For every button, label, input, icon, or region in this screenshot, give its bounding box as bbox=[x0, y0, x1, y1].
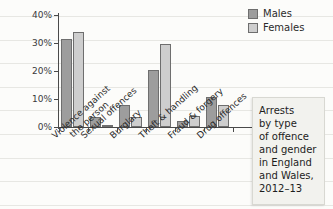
y-axis-tick-label: 20% bbox=[32, 66, 52, 76]
legend-label-males: Males bbox=[263, 8, 292, 19]
legend-item-females[interactable]: Females bbox=[248, 22, 328, 33]
x-axis-tick bbox=[117, 128, 118, 132]
x-axis-tick bbox=[59, 128, 60, 132]
x-axis-tick bbox=[88, 128, 89, 132]
y-axis-tick-label: 10% bbox=[32, 94, 52, 104]
y-axis-tick-label: 30% bbox=[32, 38, 52, 48]
legend: Males Females bbox=[248, 8, 328, 36]
caption-line: and gender bbox=[259, 143, 319, 156]
legend-swatch-males bbox=[248, 9, 258, 19]
y-axis-tick bbox=[54, 71, 59, 72]
caption-line: Arrests bbox=[259, 104, 319, 117]
y-axis-tick bbox=[54, 43, 59, 44]
x-axis-tick bbox=[175, 128, 176, 132]
caption-note: Arrestsby typeof offenceand genderin Eng… bbox=[252, 97, 325, 205]
chart-page: 0%10%20%30%40% Proportion Violence again… bbox=[0, 0, 333, 209]
x-axis-tick bbox=[233, 128, 234, 132]
caption-line: in England bbox=[259, 156, 319, 169]
legend-swatch-females bbox=[248, 23, 258, 33]
caption-line: and Wales, bbox=[259, 169, 319, 182]
y-axis-tick-label: 0% bbox=[38, 122, 52, 132]
y-axis-tick-label: 40% bbox=[32, 10, 52, 20]
y-axis-tick bbox=[54, 99, 59, 100]
caption-line: by type bbox=[259, 117, 319, 130]
y-axis-tick bbox=[54, 15, 59, 16]
caption-line: 2012–13 bbox=[259, 182, 319, 195]
x-axis-tick bbox=[204, 128, 205, 132]
caption-line: of offence bbox=[259, 130, 319, 143]
y-axis-labels: 0%10%20%30%40% bbox=[16, 0, 52, 209]
x-axis-tick bbox=[146, 128, 147, 132]
legend-label-females: Females bbox=[263, 22, 304, 33]
legend-item-males[interactable]: Males bbox=[248, 8, 328, 19]
